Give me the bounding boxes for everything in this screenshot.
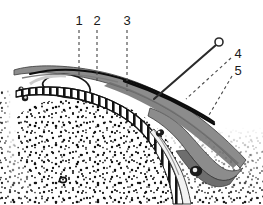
callout-label-3: 3 <box>123 13 130 28</box>
callout-label-5: 5 <box>234 63 241 78</box>
figure-canvas: 1 2 3 4 5 <box>0 0 263 205</box>
needle-head-icon <box>215 38 223 46</box>
anatomical-figure: 1 2 3 4 5 <box>0 0 263 205</box>
callout-label-2: 2 <box>93 13 100 28</box>
needle <box>154 38 223 99</box>
callout-label-1: 1 <box>75 13 82 28</box>
callout-label-4: 4 <box>234 46 241 61</box>
